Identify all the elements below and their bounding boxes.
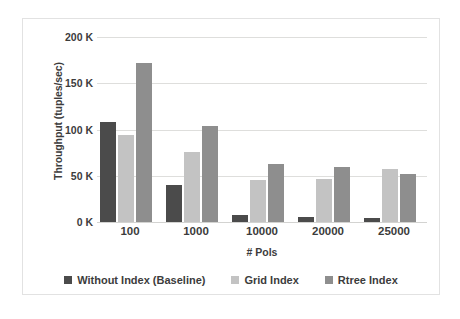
y-axis-tick-label: 0 K: [33, 216, 93, 228]
bar[interactable]: [184, 152, 200, 222]
bar[interactable]: [400, 174, 416, 222]
plot-inner: 200 K150 K100 K50 K0 K100100010000200002…: [97, 37, 427, 222]
x-axis-tick-label: 25000: [354, 225, 434, 237]
legend-item[interactable]: Without Index (Baseline): [64, 274, 205, 286]
legend-swatch-icon: [325, 276, 333, 284]
y-axis-tick-label: 200 K: [33, 31, 93, 43]
bar[interactable]: [382, 169, 398, 222]
legend-swatch-icon: [64, 276, 72, 284]
bar-group: [163, 37, 229, 222]
bar-group: [229, 37, 295, 222]
chart-legend: Without Index (Baseline)Grid IndexRtree …: [33, 274, 429, 286]
legend-item-label: Grid Index: [244, 274, 298, 286]
y-axis-tick-label: 50 K: [33, 170, 93, 182]
legend-swatch-icon: [231, 276, 239, 284]
bar-group: [97, 37, 163, 222]
bar[interactable]: [364, 218, 380, 222]
bar-group: [295, 37, 361, 222]
bar[interactable]: [268, 164, 284, 222]
bar[interactable]: [250, 180, 266, 222]
bar[interactable]: [118, 135, 134, 222]
legend-item-label: Without Index (Baseline): [77, 274, 205, 286]
y-axis-tick-label: 150 K: [33, 77, 93, 89]
bar[interactable]: [166, 185, 182, 222]
bar[interactable]: [136, 63, 152, 222]
bar-group: [361, 37, 427, 222]
gridline: [97, 222, 427, 223]
y-axis-tick-label: 100 K: [33, 124, 93, 136]
bar[interactable]: [232, 215, 248, 222]
chart-container: Throughput (tuples/sec) 200 K150 K100 K5…: [22, 18, 440, 295]
bar[interactable]: [202, 126, 218, 222]
bar[interactable]: [100, 122, 116, 222]
legend-item[interactable]: Grid Index: [231, 274, 298, 286]
x-axis-title: # Pols: [97, 246, 427, 258]
bar[interactable]: [316, 179, 332, 222]
bar[interactable]: [334, 167, 350, 222]
plot-area: 200 K150 K100 K50 K0 K100100010000200002…: [97, 37, 427, 222]
bar[interactable]: [298, 217, 314, 222]
legend-item[interactable]: Rtree Index: [325, 274, 398, 286]
legend-item-label: Rtree Index: [338, 274, 398, 286]
